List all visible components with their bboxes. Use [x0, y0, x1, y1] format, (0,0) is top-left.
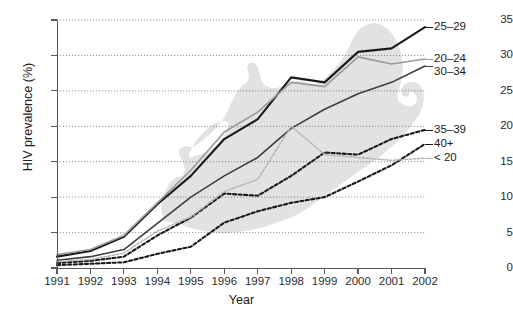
- y-tick-label-0: 0: [469, 262, 513, 274]
- y-tick-25: [51, 90, 57, 91]
- y-tick-label-5: 5: [469, 227, 513, 239]
- x-tick-2002: [424, 269, 425, 274]
- series-line-20-24: [57, 57, 425, 255]
- y-tick-35: [51, 19, 57, 20]
- x-tick-2000: [357, 269, 358, 274]
- y-axis-line: [57, 20, 58, 269]
- y-tick-label-35: 35: [469, 14, 513, 26]
- legend-label-under-20: < 20: [434, 152, 457, 164]
- legend-leader-35-39: [425, 130, 433, 131]
- x-tick-1999: [324, 269, 325, 274]
- x-tick-1991: [56, 269, 57, 274]
- legend-label-30-34: 30–34: [434, 66, 466, 78]
- legend-leader-30-34: [425, 66, 433, 67]
- series-line-25-29: [57, 27, 425, 257]
- x-axis-line: [57, 268, 426, 269]
- y-tick-label-25: 25: [469, 85, 513, 97]
- x-tick-label-2002: 2002: [402, 276, 448, 288]
- y-tick-label-15: 15: [469, 156, 513, 168]
- y-tick-label-30: 30: [469, 49, 513, 61]
- series-line-30-34: [57, 66, 425, 260]
- y-tick-20: [51, 126, 57, 127]
- y-tick-15: [51, 161, 57, 162]
- x-tick-1992: [90, 269, 91, 274]
- y-axis-title: HIV prevalence (%): [21, 27, 35, 207]
- legend-label-40+: 40+: [434, 138, 454, 150]
- x-tick-1993: [123, 269, 124, 274]
- legend-label-25-29: 25–29: [434, 21, 466, 33]
- x-tick-1998: [291, 269, 292, 274]
- legend-label-20-24: 20–24: [434, 53, 466, 65]
- legend-leader-40+: [425, 144, 433, 145]
- legend-leader-under-20: [425, 158, 433, 159]
- y-tick-5: [51, 232, 57, 233]
- y-tick-10: [51, 197, 57, 198]
- legend-label-35-39: 35–39: [434, 124, 466, 136]
- series-line-40+: [57, 144, 425, 265]
- series-lines: [57, 20, 425, 268]
- series-line-35-39: [57, 130, 425, 263]
- plot-area: [57, 20, 425, 268]
- y-tick-label-10: 10: [469, 191, 513, 203]
- y-tick-label-20: 20: [469, 120, 513, 132]
- x-tick-1996: [224, 269, 225, 274]
- x-tick-2001: [391, 269, 392, 274]
- hiv-prevalence-chart-figure: 05101520253035 1991199219931994199519961…: [0, 0, 513, 329]
- y-tick-30: [51, 55, 57, 56]
- x-tick-1994: [157, 269, 158, 274]
- legend-leader-25-29: [425, 27, 433, 28]
- x-tick-1995: [190, 269, 191, 274]
- legend-leader-20-24: [425, 59, 433, 60]
- x-axis-title: Year: [57, 293, 426, 307]
- x-tick-1997: [257, 269, 258, 274]
